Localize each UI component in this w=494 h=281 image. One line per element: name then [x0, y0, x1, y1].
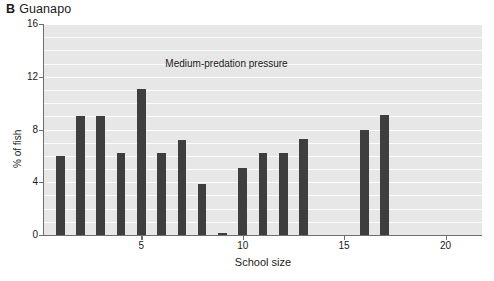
x-tick-label: 5 [127, 240, 155, 251]
bar [238, 168, 247, 235]
gridline [44, 77, 482, 78]
bar [137, 89, 146, 235]
bar [76, 116, 85, 235]
bar [279, 153, 288, 235]
bar [299, 139, 308, 235]
y-tick-mark [39, 235, 43, 236]
bar [259, 153, 268, 235]
x-axis-line [44, 235, 482, 236]
bar [117, 153, 126, 235]
gridline [44, 143, 482, 144]
y-tick-label: 16 [8, 18, 38, 29]
y-tick-label: 4 [8, 176, 38, 187]
panel-letter: B [6, 2, 15, 16]
bar [157, 153, 166, 235]
x-axis-title: School size [44, 256, 482, 268]
bar [380, 115, 389, 235]
bar [360, 130, 369, 236]
plot-area [44, 24, 482, 235]
gridline [44, 116, 482, 117]
panel-name: Guanapo [19, 2, 71, 16]
x-tick-label: 20 [432, 240, 460, 251]
annotation-medium-predation: Medium-predation pressure [165, 58, 287, 69]
y-axis-title: % of fish [12, 130, 23, 168]
y-axis-line [43, 24, 44, 236]
gridline [44, 103, 482, 104]
x-tick-mark [344, 236, 345, 240]
gridline [44, 90, 482, 91]
x-tick-mark [141, 236, 142, 240]
gridline [44, 37, 482, 38]
x-tick-mark [243, 236, 244, 240]
gridline [44, 50, 482, 51]
bar [56, 156, 65, 235]
x-tick-label: 10 [229, 240, 257, 251]
figure-panel: BGuanapo 04812165101520 % of fish School… [0, 0, 494, 281]
y-tick-mark [39, 130, 43, 131]
page-title: BGuanapo [6, 2, 71, 16]
y-tick-mark [39, 182, 43, 183]
bar [178, 140, 187, 235]
gridline [44, 24, 482, 25]
x-tick-mark [446, 236, 447, 240]
y-tick-mark [39, 77, 43, 78]
x-tick-label: 15 [330, 240, 358, 251]
gridline [44, 130, 482, 131]
bar [96, 116, 105, 235]
y-tick-label: 12 [8, 71, 38, 82]
y-tick-mark [39, 24, 43, 25]
bar [198, 184, 207, 235]
y-tick-label: 0 [8, 229, 38, 240]
